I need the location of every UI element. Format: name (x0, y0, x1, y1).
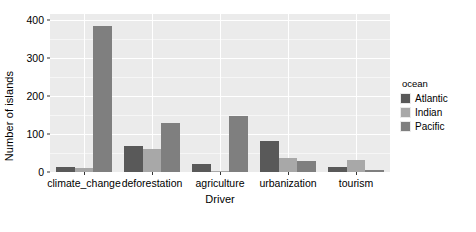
legend-color-swatch (401, 122, 410, 131)
legend-item: Indian (400, 106, 474, 119)
x-axis-tick-labels: climate_changedeforestationagricultureur… (50, 172, 390, 192)
x-axis-tick-label: agriculture (195, 177, 244, 189)
y-axis-tick-label: 0 (38, 166, 44, 178)
x-axis-tick-mark (356, 172, 357, 175)
y-axis-tick-labels: 0100200300400 (18, 14, 50, 172)
bar (279, 158, 298, 172)
plot-panel (50, 14, 390, 172)
legend-item-label: Atlantic (415, 93, 448, 104)
bar (161, 123, 180, 172)
x-axis-title: Driver (50, 193, 390, 205)
legend-items: AtlanticIndianPacific (400, 92, 474, 133)
x-axis-tick-mark (84, 172, 85, 175)
y-axis-title: Number of islands (0, 0, 18, 232)
y-axis-tick-label: 300 (26, 52, 44, 64)
bar-chart-figure: Number of islands 0100200300400 climate_… (0, 0, 476, 232)
legend-color-swatch (401, 94, 410, 103)
bar (297, 161, 316, 172)
legend-item-label: Pacific (415, 121, 444, 132)
x-axis-tick-mark (220, 172, 221, 175)
legend-key-background (400, 93, 411, 104)
legend-item: Atlantic (400, 92, 474, 105)
bar (229, 116, 248, 172)
bar (260, 141, 279, 172)
y-axis-tick-label: 200 (26, 90, 44, 102)
bar (192, 164, 211, 172)
bar (124, 146, 143, 172)
bar (93, 26, 112, 172)
bar-series-container (50, 14, 390, 172)
legend-item: Pacific (400, 120, 474, 133)
x-axis-tick-label: urbanization (259, 177, 316, 189)
legend-key-background (400, 121, 411, 132)
legend-title: ocean (402, 78, 474, 89)
x-axis-tick-label: climate_change (47, 177, 121, 189)
y-axis-tick-label: 100 (26, 128, 44, 140)
y-axis-tick-label: 400 (26, 14, 44, 26)
x-axis-tick-mark (288, 172, 289, 175)
x-axis-tick-label: deforestation (122, 177, 183, 189)
bar (347, 160, 366, 172)
bar (143, 149, 162, 172)
legend-color-swatch (401, 108, 410, 117)
x-axis-tick-label: tourism (339, 177, 373, 189)
x-axis-tick-mark (152, 172, 153, 175)
legend-key-background (400, 107, 411, 118)
legend-item-label: Indian (415, 107, 442, 118)
legend: ocean AtlanticIndianPacific (400, 78, 474, 134)
